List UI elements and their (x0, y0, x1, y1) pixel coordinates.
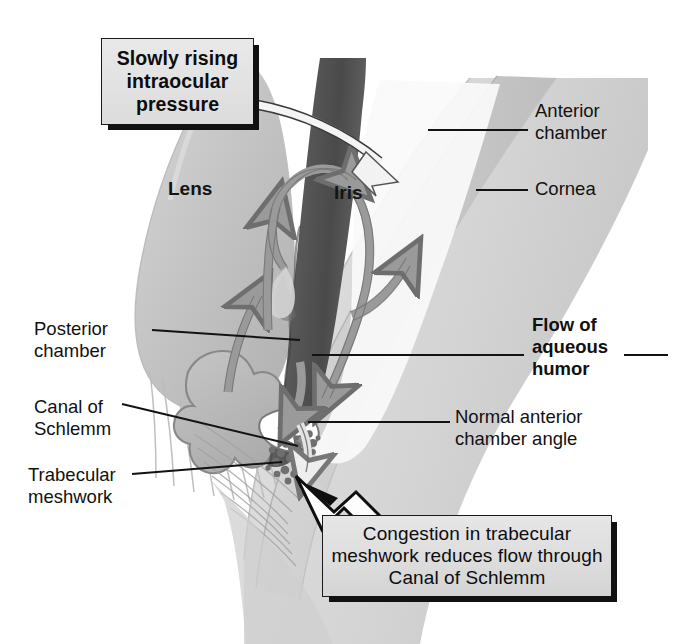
callout-text: Slowly rising intraocular pressure (102, 39, 253, 124)
label-flow-of-aqueous-humor: Flow of aqueous humor (532, 314, 608, 379)
callout-congestion-trabecular-meshwork: Congestion in trabecular meshwork reduce… (322, 515, 612, 597)
label-lens: Lens (168, 178, 212, 200)
label-anterior-chamber: Anterior chamber (535, 100, 607, 144)
label-posterior-chamber: Posterior chamber (34, 318, 108, 362)
callout-slowly-rising-intraocular-pressure: Slowly rising intraocular pressure (101, 38, 254, 125)
figure-canvas: Slowly rising intraocular pressure Conge… (0, 0, 684, 644)
label-iris: Iris (334, 182, 363, 204)
callout-text: Congestion in trabecular meshwork reduce… (323, 516, 611, 596)
label-canal-of-schlemm: Canal of Schlemm (34, 396, 111, 440)
label-cornea: Cornea (535, 178, 596, 200)
callout-shadow-right (611, 522, 617, 602)
label-trabecular-meshwork: Trabecular meshwork (28, 464, 116, 508)
callout-shadow-bottom (329, 596, 617, 602)
callout-shadow-bottom (108, 124, 259, 130)
label-normal-anterior-chamber-angle: Normal anterior chamber angle (455, 406, 583, 450)
callout-shadow-right (253, 45, 259, 130)
